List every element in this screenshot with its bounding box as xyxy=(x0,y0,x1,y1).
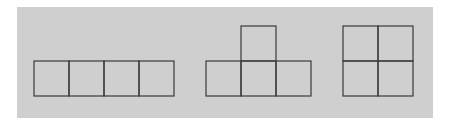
unit-square xyxy=(69,61,104,96)
unit-square xyxy=(343,26,378,61)
unit-square xyxy=(206,61,241,96)
unit-square xyxy=(343,61,378,96)
shapes-layer xyxy=(0,0,451,123)
diagram-canvas xyxy=(0,0,451,123)
unit-square xyxy=(276,61,311,96)
shape-o-tetromino xyxy=(343,26,413,96)
unit-square xyxy=(139,61,174,96)
unit-square xyxy=(241,26,276,61)
shape-t-tetromino xyxy=(206,26,311,96)
unit-square xyxy=(104,61,139,96)
unit-square xyxy=(241,61,276,96)
unit-square xyxy=(378,61,413,96)
unit-square xyxy=(378,26,413,61)
shape-i-tetromino xyxy=(34,61,174,96)
unit-square xyxy=(34,61,69,96)
